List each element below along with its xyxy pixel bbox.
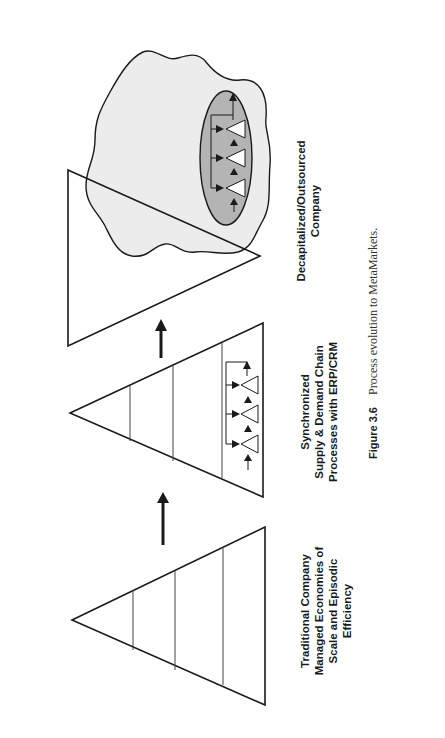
svg-text:Synchronized: Synchronized	[299, 374, 311, 449]
up-arrow-icon	[157, 492, 169, 545]
synchronized-pyramid	[70, 323, 263, 497]
svg-text:Decapitalized/Outsourced: Decapitalized/Outsourced	[295, 140, 307, 281]
svg-text:Company: Company	[309, 184, 321, 237]
svg-text:Traditional Company: Traditional Company	[299, 554, 311, 668]
svg-text:Processes with ERP/CRM: Processes with ERP/CRM	[327, 342, 339, 482]
figure-caption-text: Process evolution to MetaMarkets.	[366, 228, 380, 395]
up-arrow-icon	[155, 319, 167, 358]
label-decapitalized: Decapitalized/Outsourced Company	[295, 140, 321, 281]
label-traditional: Traditional Company Managed Economies of…	[299, 547, 353, 676]
svg-text:Scale and Episodic: Scale and Episodic	[327, 558, 339, 663]
figure-caption: Figure 3.6 Process evolution to MetaMark…	[363, 228, 380, 459]
figure-number: Figure 3.6	[367, 407, 379, 459]
traditional-pyramid	[72, 527, 265, 705]
svg-text:Efficiency: Efficiency	[341, 583, 353, 638]
svg-text:Managed Economies of: Managed Economies of	[313, 547, 325, 676]
label-synchronized: Synchronized Supply & Demand Chain Proce…	[299, 342, 339, 482]
process-evolution-diagram: Traditional Company Managed Economies of…	[0, 0, 445, 738]
decapitalized-pyramid	[68, 51, 270, 346]
svg-text:Figure 3.6 Process evolu: Figure 3.6 Process evolution to MetaMark…	[363, 228, 380, 459]
svg-text:Supply & Demand Chain: Supply & Demand Chain	[313, 345, 325, 479]
